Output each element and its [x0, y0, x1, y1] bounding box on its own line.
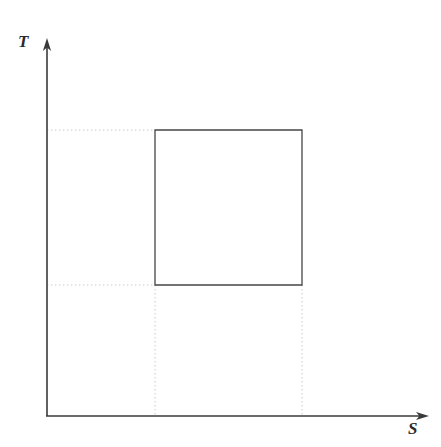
temperature-axis-label: T — [18, 33, 28, 50]
cycle-rectangle-group — [155, 130, 302, 285]
cycle-rectangle — [155, 130, 302, 285]
figure-canvas: T S — [0, 0, 441, 447]
guide-lines-group — [47, 130, 302, 416]
axes-group — [43, 38, 429, 420]
entropy-axis-label: S — [408, 420, 417, 437]
diagram-svg — [0, 0, 441, 447]
